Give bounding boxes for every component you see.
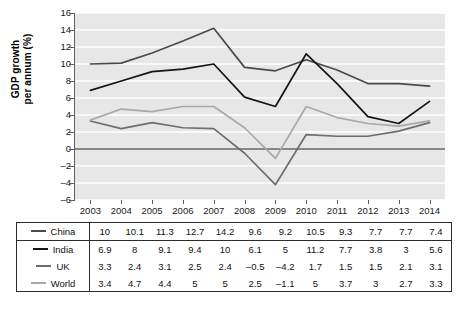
series-name: UK [56,261,69,272]
y-tick-label: 16 [49,8,71,17]
table-row: UK3.32.43.12.52.4–0.5–4.21.71.51.52.13.1 [17,258,451,275]
value-cell: 7.7 [361,223,391,241]
value-cell: 2.4 [120,258,150,275]
series-line-uk [90,121,429,185]
y-tick-label: 4 [49,110,71,119]
value-cell: 3.1 [150,258,180,275]
value-cell: 4.7 [120,275,150,292]
value-cell: 3.3 [90,258,120,275]
series-label-cell: India [17,241,90,259]
value-cell: 4.4 [150,275,180,292]
line-chart: GDP growth per annum (%) 1614121086420–2… [0,0,464,218]
value-cell: 3 [361,275,391,292]
value-cell: 1.7 [300,258,330,275]
value-cell: 2.7 [391,275,421,292]
value-cell: –4.2 [270,258,300,275]
x-tick-mark [121,200,122,204]
value-cell: 11.3 [150,223,180,241]
value-cell: 9.2 [270,223,300,241]
series-value-table: China1010.111.312.714.29.69.210.59.37.77… [17,223,451,292]
x-axis: 2003200420052006200720082009201020112012… [0,200,464,218]
y-tick-label: –2 [49,161,71,170]
legend-line-icon [31,230,46,232]
legend-line-icon [31,282,46,284]
plot-area [75,13,445,200]
legend-line-icon [33,248,48,250]
value-cell: 6.9 [90,241,120,259]
value-cell: 9.1 [150,241,180,259]
value-cell: 3.4 [90,275,120,292]
x-tick-mark [245,200,246,204]
x-tick-mark [430,200,431,204]
table-row: China1010.111.312.714.29.69.210.59.37.77… [17,223,451,241]
value-cell: 5 [300,275,330,292]
series-name: China [51,226,76,237]
value-cell: 3 [391,241,421,259]
value-cell: 2.4 [210,258,240,275]
value-cell: 3.8 [361,241,391,259]
value-cell: 2.1 [391,258,421,275]
y-tick-label: 8 [49,76,71,85]
value-cell: 1.5 [361,258,391,275]
x-tick-label: 2014 [410,205,450,216]
value-cell: 9.6 [240,223,270,241]
table-row: India6.989.19.4106.1511.27.73.835.6 [17,241,451,259]
value-cell: 3.1 [421,258,451,275]
value-cell: 10 [210,241,240,259]
y-axis-title-line1: GDP growth [10,40,21,99]
value-cell: 9.4 [180,241,210,259]
y-tick-label: 2 [49,127,71,136]
value-cell: 3.3 [421,275,451,292]
x-tick-mark [183,200,184,204]
series-label-cell: World [17,275,90,292]
x-tick-mark [399,200,400,204]
y-tick-label: 14 [49,25,71,34]
y-axis-title-line2: per annum (%) [22,34,33,105]
series-name: World [51,278,76,289]
x-tick-mark [275,200,276,204]
value-cell: 6.1 [240,241,270,259]
table-row: World3.44.74.4552.5–1.153.732.73.3 [17,275,451,292]
legend-line-icon [36,265,51,267]
value-cell: 14.2 [210,223,240,241]
y-tick-label: –4 [49,178,71,187]
series-line-china [90,28,429,86]
value-cell: 7.7 [331,241,361,259]
value-cell: 7.7 [391,223,421,241]
y-axis-tick-labels: 1614121086420–2–4–6 [45,0,71,218]
gdp-growth-figure: GDP growth per annum (%) 1614121086420–2… [0,0,464,312]
x-tick-mark [306,200,307,204]
x-tick-mark [152,200,153,204]
x-tick-mark [90,200,91,204]
value-cell: 5 [180,275,210,292]
y-axis-title: GDP growth per annum (%) [10,4,34,134]
series-label-cell: China [17,223,90,241]
value-cell: 10.1 [120,223,150,241]
value-cell: 8 [120,241,150,259]
value-cell: –0.5 [240,258,270,275]
value-cell: 10.5 [300,223,330,241]
plot-svg [75,13,445,200]
value-cell: 12.7 [180,223,210,241]
value-cell: 7.4 [421,223,451,241]
series-name: India [53,244,74,255]
value-cell: 1.5 [331,258,361,275]
y-tick-label: 0 [49,144,71,153]
value-cell: 5 [270,241,300,259]
x-tick-mark [368,200,369,204]
value-cell: 5 [210,275,240,292]
value-cell: 2.5 [240,275,270,292]
y-tick-label: 10 [49,59,71,68]
value-cell: 10 [90,223,120,241]
x-tick-mark [214,200,215,204]
x-tick-mark [337,200,338,204]
y-tick-label: 6 [49,93,71,102]
value-cell: –1.1 [270,275,300,292]
value-cell: 2.5 [180,258,210,275]
y-tick-label: 12 [49,42,71,51]
value-cell: 9.3 [331,223,361,241]
value-cell: 3.7 [331,275,361,292]
value-cell: 11.2 [300,241,330,259]
value-cell: 5.6 [421,241,451,259]
data-table: China1010.111.312.714.29.69.210.59.37.77… [16,222,452,292]
